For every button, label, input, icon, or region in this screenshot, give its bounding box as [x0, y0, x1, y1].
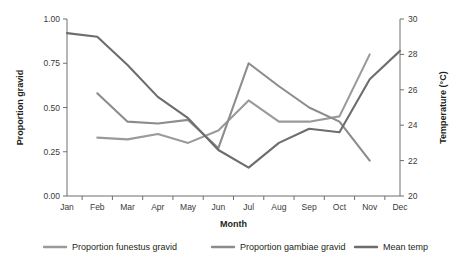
legend-label-1: Proportion gambiae gravid — [240, 242, 346, 252]
y-axis-title: Proportion gravid — [15, 70, 25, 146]
y-axis-tick-label: 0.25 — [43, 147, 60, 157]
x-axis-tick-label: Sep — [302, 202, 317, 212]
x-axis-tick-label: Jul — [243, 202, 254, 212]
series-line-1 — [97, 63, 369, 160]
line-chart: 0.000.250.500.751.00202224262830JanFebMa… — [0, 0, 464, 269]
x-axis-title: Month — [220, 219, 247, 229]
chart-figure: 0.000.250.500.751.00202224262830JanFebMa… — [0, 0, 464, 269]
y2-axis-tick-label: 30 — [408, 14, 418, 24]
y2-axis-tick-label: 22 — [408, 156, 418, 166]
x-axis-tick-label: May — [180, 202, 197, 212]
y2-axis-tick-label: 24 — [408, 120, 418, 130]
x-axis-tick-label: Mar — [120, 202, 135, 212]
legend-label-0: Proportion funestus gravid — [72, 242, 177, 252]
x-axis-tick-label: Nov — [362, 202, 378, 212]
y2-axis-tick-label: 28 — [408, 49, 418, 59]
y2-axis-tick-label: 20 — [408, 191, 418, 201]
x-axis-tick-label: Aug — [271, 202, 286, 212]
x-axis-tick-label: Jan — [60, 202, 74, 212]
series-line-2 — [67, 33, 400, 168]
x-axis-tick-label: Feb — [90, 202, 105, 212]
series-line-0 — [97, 54, 369, 142]
y2-axis-tick-label: 26 — [408, 85, 418, 95]
x-axis-tick-label: Apr — [151, 202, 164, 212]
x-axis-tick-label: Oct — [333, 202, 347, 212]
legend-label-2: Mean temp — [383, 242, 428, 252]
y-axis-tick-label: 0.00 — [43, 191, 60, 201]
y-axis-tick-label: 0.50 — [43, 103, 60, 113]
y-axis-tick-label: 1.00 — [43, 14, 60, 24]
x-axis-tick-label: Dec — [392, 202, 408, 212]
y-axis-tick-label: 0.75 — [43, 58, 60, 68]
x-axis-tick-label: Jun — [212, 202, 226, 212]
y2-axis-title: Temperature (°C) — [438, 71, 448, 143]
